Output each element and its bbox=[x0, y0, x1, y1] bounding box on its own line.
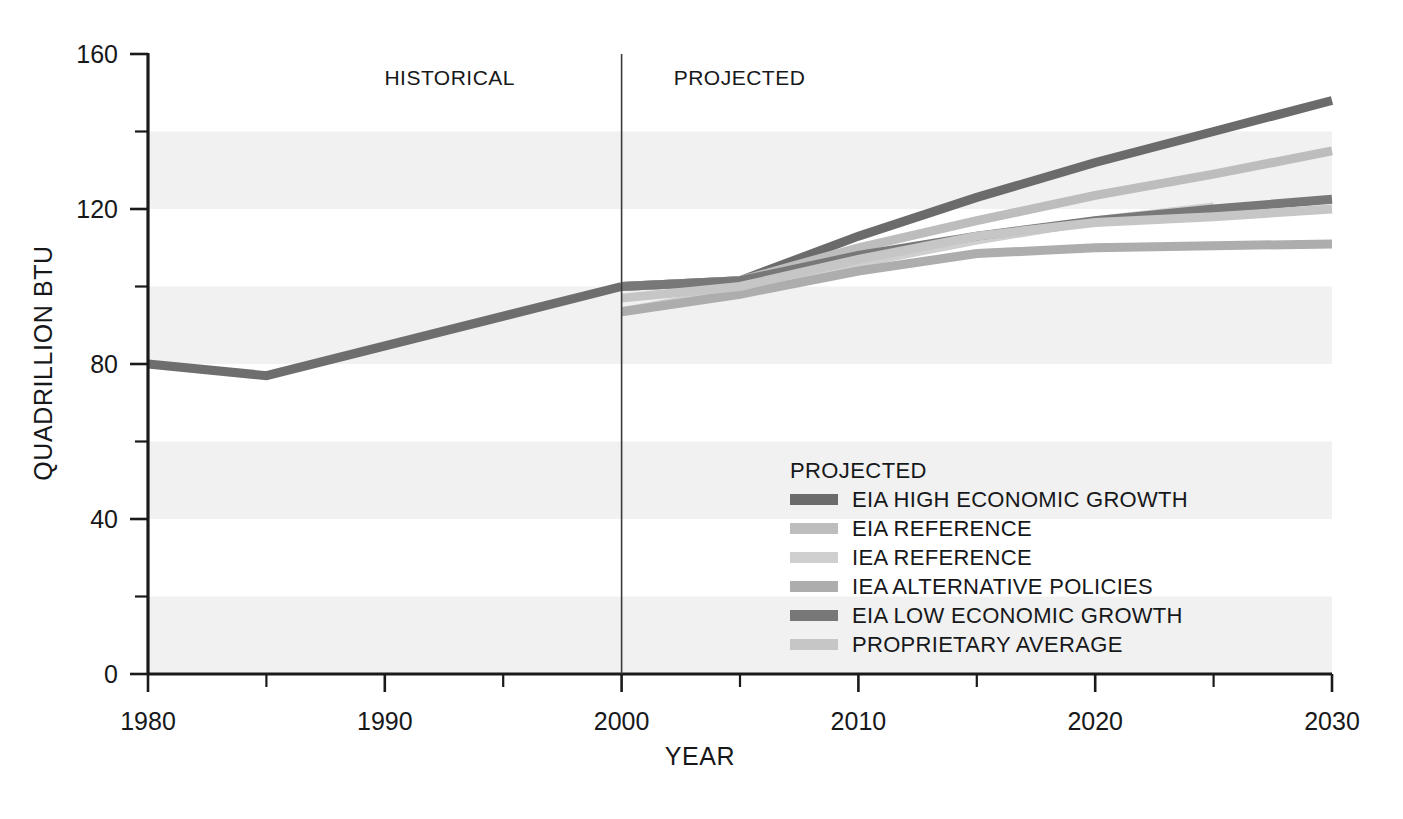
y-axis-title: QUADRILLION BTU bbox=[29, 245, 57, 480]
legend-swatch bbox=[790, 494, 838, 505]
legend-item-label: EIA HIGH ECONOMIC GROWTH bbox=[852, 487, 1188, 512]
x-tick-label: 1990 bbox=[357, 707, 413, 735]
chart-container: 04080120160198019902000201020202030 HIST… bbox=[0, 0, 1403, 819]
projected-label: PROJECTED bbox=[674, 66, 806, 89]
legend-item-label: IEA REFERENCE bbox=[852, 545, 1032, 570]
y-tick-label: 80 bbox=[90, 350, 118, 378]
legend-swatch bbox=[790, 639, 838, 650]
legend-item-label: IEA ALTERNATIVE POLICIES bbox=[852, 574, 1153, 599]
x-tick-label: 1980 bbox=[120, 707, 176, 735]
legend-swatch bbox=[790, 581, 838, 592]
x-tick-label: 2010 bbox=[831, 707, 887, 735]
legend-swatch bbox=[790, 552, 838, 563]
x-tick-label: 2020 bbox=[1067, 707, 1123, 735]
legend-item-label: EIA LOW ECONOMIC GROWTH bbox=[852, 603, 1183, 628]
x-tick-label: 2030 bbox=[1304, 707, 1360, 735]
legend-item-label: PROPRIETARY AVERAGE bbox=[852, 632, 1123, 657]
legend-swatch bbox=[790, 610, 838, 621]
y-tick-label: 40 bbox=[90, 505, 118, 533]
legend-swatch bbox=[790, 523, 838, 534]
legend-title: PROJECTED bbox=[790, 458, 927, 483]
y-tick-label: 0 bbox=[104, 660, 118, 688]
y-tick-label: 120 bbox=[76, 195, 118, 223]
x-tick-label: 2000 bbox=[594, 707, 650, 735]
y-tick-label: 160 bbox=[76, 40, 118, 68]
line-chart: 04080120160198019902000201020202030 HIST… bbox=[0, 0, 1403, 819]
historical-label: HISTORICAL bbox=[384, 66, 515, 89]
x-axis-title: YEAR bbox=[665, 742, 735, 770]
legend-item-label: EIA REFERENCE bbox=[852, 516, 1032, 541]
